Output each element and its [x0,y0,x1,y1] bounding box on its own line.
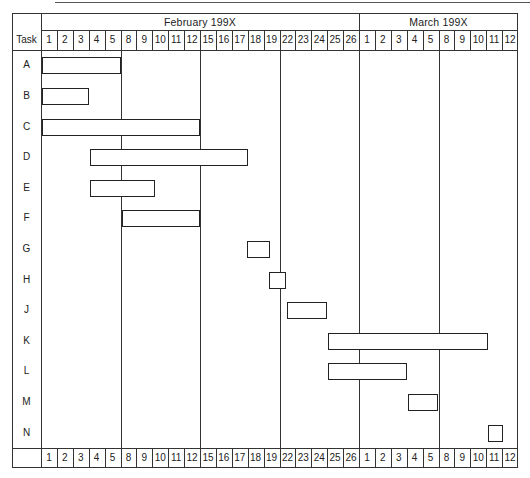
month-label: March 199X [359,14,518,31]
day-divider [232,30,233,50]
day-divider [136,30,137,50]
task-label: G [12,243,41,254]
day-divider [470,30,471,50]
day-divider [439,448,440,468]
day-divider [280,448,281,468]
day-divider [264,30,265,50]
day-divider [184,448,185,468]
day-divider [439,30,440,50]
footer-day-label: 11 [168,448,184,468]
footer-day-label: 9 [136,448,152,468]
task-label: C [12,121,41,132]
task-column-header: Task [12,30,41,50]
day-divider [200,448,201,468]
day-label: 5 [423,30,439,50]
day-divider [486,30,487,50]
day-divider [73,448,74,468]
task-bar-e [90,180,156,197]
footer-day-label: 3 [73,448,89,468]
day-divider [89,448,90,468]
task-bar-j [287,302,327,319]
day-divider [152,448,153,468]
footer-day-label: 5 [105,448,121,468]
day-divider [311,30,312,50]
task-label: H [12,274,41,285]
day-divider [375,448,376,468]
footer-day-label: 25 [327,448,343,468]
day-divider [375,30,376,50]
task-bar-n [488,425,503,442]
day-divider [470,448,471,468]
day-label: 4 [407,30,423,50]
day-divider [168,448,169,468]
footer-day-label: 18 [248,448,264,468]
day-label: 12 [502,30,518,50]
footer-day-label: 1 [41,448,57,468]
task-label: E [12,182,41,193]
day-divider [152,30,153,50]
footer-day-label: 9 [454,448,470,468]
day-label: 23 [295,30,311,50]
day-divider [486,448,487,468]
day-label: 12 [184,30,200,50]
footer-day-label: 3 [391,448,407,468]
footer-day-label: 10 [152,448,168,468]
day-divider [311,448,312,468]
week-gridline [121,50,122,448]
footer-day-label: 16 [216,448,232,468]
day-divider [391,448,392,468]
footer-day-label: 4 [407,448,423,468]
footer-day-label: 15 [200,448,216,468]
footer-day-label: 1 [359,448,375,468]
task-bar-k [328,333,488,350]
day-divider [327,448,328,468]
day-label: 3 [391,30,407,50]
task-label: N [12,427,41,438]
task-label: K [12,335,41,346]
day-divider [232,448,233,468]
day-label: 24 [311,30,327,50]
day-label: 10 [152,30,168,50]
task-bar-g [247,241,270,258]
day-divider [327,30,328,50]
top-rule [55,2,530,3]
footer-day-label: 19 [264,448,280,468]
month-divider [359,13,360,30]
day-label: 15 [200,30,216,50]
task-column-divider [41,13,42,468]
task-label: F [12,212,41,223]
footer-day-label: 8 [439,448,455,468]
footer-day-label: 17 [232,448,248,468]
day-divider [423,448,424,468]
day-label: 2 [375,30,391,50]
day-label: 22 [280,30,296,50]
day-divider [295,30,296,50]
task-bar-l [328,363,407,380]
day-divider [89,30,90,50]
day-divider [121,448,122,468]
footer-day-label: 11 [486,448,502,468]
week-gridline [280,50,281,448]
footer-day-label: 26 [343,448,359,468]
day-divider [136,448,137,468]
month-label: February 199X [41,14,359,31]
day-label: 4 [89,30,105,50]
task-label: A [12,59,41,70]
day-divider [105,30,106,50]
task-bar-b [42,88,89,105]
day-label: 25 [327,30,343,50]
task-bar-c [42,119,200,136]
day-label: 11 [168,30,184,50]
day-divider [73,30,74,50]
day-divider [343,448,344,468]
day-label: 17 [232,30,248,50]
day-divider [280,30,281,50]
day-divider [264,448,265,468]
footer-day-label: 2 [375,448,391,468]
day-label: 19 [264,30,280,50]
day-divider [391,30,392,50]
day-divider [359,448,360,468]
task-label: B [12,90,41,101]
day-divider [105,448,106,468]
day-divider [121,30,122,50]
